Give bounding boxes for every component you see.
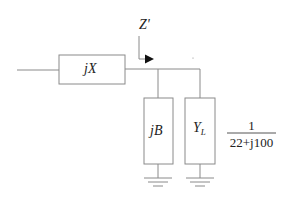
load-admittance-main: Y — [193, 120, 201, 135]
fraction-denominator: 22+j100 — [227, 136, 276, 149]
impedance-label: Z' — [139, 18, 150, 32]
fraction-numerator: 1 — [227, 119, 276, 132]
shunt-susceptance-label: jB — [150, 124, 162, 138]
load-admittance-label: YL — [193, 121, 206, 137]
arrow-right-icon — [145, 55, 154, 64]
series-reactance-label: jX — [84, 62, 96, 76]
load-admittance-sub: L — [201, 127, 206, 137]
node-dot — [192, 57, 193, 58]
